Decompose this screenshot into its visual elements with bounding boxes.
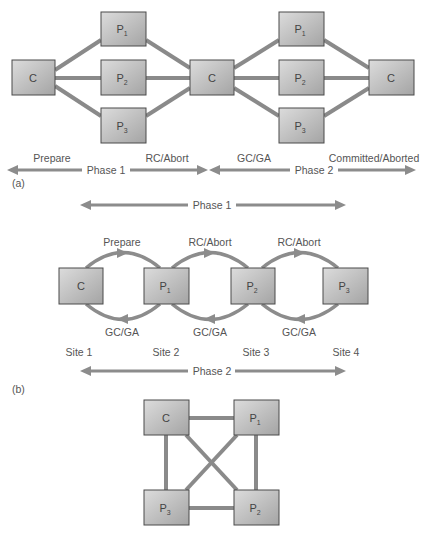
- node-participant-2-c: P2: [234, 490, 279, 525]
- label-site-1: Site 1: [66, 346, 93, 358]
- label-gc-ga-b2: GC/GA: [193, 326, 227, 338]
- label-gc-ga-b1: GC/GA: [105, 326, 139, 338]
- label-gc-ga-b3: GC/GA: [282, 326, 316, 338]
- node-participant-3-b: P3: [323, 268, 368, 304]
- label-rc-abort-b1: RC/Abort: [188, 236, 231, 248]
- part-c-distributed: C P1 P3 P2: [144, 400, 279, 525]
- part-a-centralized: C P1 P2 P3 C P1 P2 P3: [7, 12, 419, 189]
- node-participant-2-b: P2: [231, 268, 275, 304]
- label-rc-abort: RC/Abort: [145, 152, 188, 164]
- caption-a: (a): [12, 177, 25, 189]
- phase-1-arrow-b: Phase 1: [80, 199, 346, 211]
- node-coordinator-b: C: [59, 268, 103, 304]
- label-gc-ga: GC/GA: [237, 152, 271, 164]
- svg-text:C: C: [208, 72, 216, 84]
- label-prepare-b: Prepare: [103, 236, 141, 248]
- label-site-3: Site 3: [243, 346, 270, 358]
- phase-2-arrow-a: Phase 2: [209, 164, 416, 176]
- node-coordinator-c: C: [144, 400, 189, 435]
- node-participant-3-c: P3: [144, 490, 189, 525]
- svg-text:C: C: [387, 72, 395, 84]
- svg-text:C: C: [29, 72, 37, 84]
- phase-2-label-b: Phase 2: [193, 365, 232, 377]
- node-participant-1-c: P1: [234, 400, 279, 435]
- node-participant-3a: P3: [101, 108, 146, 143]
- label-prepare: Prepare: [33, 152, 71, 164]
- part-b-arcs: [86, 248, 338, 324]
- phase-2-label-a: Phase 2: [295, 164, 334, 176]
- label-committed-aborted: Committed/Aborted: [329, 152, 420, 164]
- node-participant-3b: P3: [279, 108, 324, 143]
- label-site-2: Site 2: [153, 346, 180, 358]
- label-rc-abort-b2: RC/Abort: [277, 236, 320, 248]
- node-coordinator-1: C: [12, 60, 55, 95]
- node-participant-1b: P1: [279, 12, 324, 46]
- phase-1-label-a: Phase 1: [87, 164, 126, 176]
- node-coordinator-3: C: [369, 60, 414, 95]
- node-participant-2b: P2: [279, 60, 324, 95]
- caption-b: (b): [12, 383, 25, 395]
- node-participant-2a: P2: [101, 60, 146, 95]
- part-b-linear: Phase 1 Prepare RC/Abort RC/Abort C: [12, 199, 368, 395]
- phase-2-arrow-b: Phase 2: [80, 365, 346, 377]
- label-site-4: Site 4: [333, 346, 360, 358]
- phase-1-arrow-a: Phase 1: [7, 164, 208, 176]
- node-coordinator-2: C: [190, 60, 234, 95]
- phase-1-label-b: Phase 1: [193, 199, 232, 211]
- two-phase-commit-diagram: C P1 P2 P3 C P1 P2 P3: [0, 0, 421, 533]
- node-participant-1a: P1: [101, 12, 146, 46]
- svg-text:C: C: [77, 280, 85, 292]
- node-participant-1-b: P1: [144, 268, 189, 304]
- svg-text:C: C: [162, 412, 170, 424]
